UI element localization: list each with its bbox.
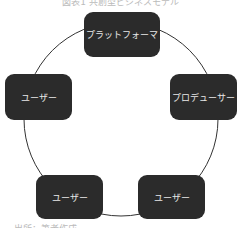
- node-label: ユーザー: [154, 191, 190, 204]
- node-user-left: ユーザー: [5, 74, 72, 120]
- node-label: ユーザー: [21, 91, 57, 104]
- node-label: プラットフォーマ: [86, 28, 158, 41]
- node-label: プロデューサー: [172, 91, 235, 104]
- node-platformer: プラットフォーマ: [84, 12, 160, 57]
- node-label: ユーザー: [52, 191, 88, 204]
- node-producer: プロデューサー: [170, 74, 237, 120]
- node-user-bottom-left: ユーザー: [36, 175, 103, 219]
- diagram-source: 出所：筆者作成: [14, 222, 77, 228]
- node-user-bottom-right: ユーザー: [138, 175, 205, 219]
